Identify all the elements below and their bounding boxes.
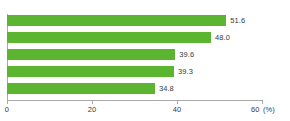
x-axis-line bbox=[7, 100, 262, 101]
bar bbox=[7, 66, 174, 77]
x-tick-label: 0 bbox=[5, 106, 9, 114]
bar-row: 39.6 bbox=[7, 49, 262, 60]
tick-mark bbox=[177, 100, 178, 104]
tick-mark bbox=[7, 100, 8, 104]
bar-value-label: 51.6 bbox=[230, 17, 245, 25]
axis-unit-label: (%) bbox=[263, 106, 275, 114]
x-tick-label: 60 bbox=[251, 106, 260, 114]
bar-value-label: 48.0 bbox=[215, 34, 230, 42]
bar-value-label: 39.3 bbox=[178, 68, 193, 76]
bar-value-label: 34.8 bbox=[159, 85, 174, 93]
bar-row: 34.8 bbox=[7, 83, 262, 94]
bar bbox=[7, 15, 226, 26]
bar-value-label: 39.6 bbox=[179, 51, 194, 59]
tick-mark bbox=[92, 100, 93, 104]
bar bbox=[7, 32, 211, 43]
x-tick-label: 40 bbox=[173, 106, 182, 114]
bar-chart: 51.648.039.639.334.8 0204060 (%) bbox=[0, 0, 290, 121]
bar-row: 39.3 bbox=[7, 66, 262, 77]
tick-mark bbox=[262, 100, 263, 104]
bar-row: 51.6 bbox=[7, 15, 262, 26]
bar bbox=[7, 83, 155, 94]
x-tick-label: 20 bbox=[88, 106, 97, 114]
bar-row: 48.0 bbox=[7, 32, 262, 43]
bar bbox=[7, 49, 175, 60]
